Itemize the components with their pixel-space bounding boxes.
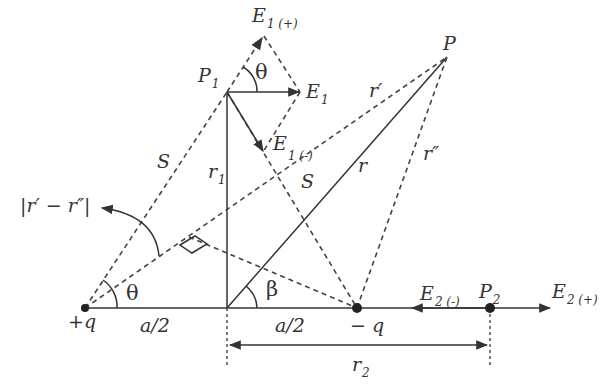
s-left-line [85,92,227,308]
r-diff-label: |r′ − r″| [20,194,90,217]
e1-minus-label: E1 (-) [272,132,313,163]
e1-plus-label: E1 (+) [251,4,298,31]
beta-arc [246,286,257,308]
e1-minus-arrow [227,92,263,151]
negative-charge-label: − q [350,314,384,336]
r-diff-arrow [102,208,159,256]
half-a-right-label: a/2 [275,314,305,336]
positive-charge-label: +q [68,310,96,332]
r-main-label: r [358,154,369,176]
half-a-left-label: a/2 [140,314,170,336]
p1-label: P1 [197,64,219,91]
r1-label: r1 [208,160,226,187]
r-prime-label: r′ [369,79,383,101]
s-right-label: S [301,170,314,192]
theta-bottom-arc [103,280,117,308]
r-double-prime-label: r″ [423,142,439,164]
s-left-label: S [157,150,170,172]
theta-bottom-label: θ [126,281,139,305]
e1-parallelogram-side [264,36,300,92]
p2-label: P2 [478,280,500,307]
dipole-diagram: E1 (+) θ P1 E1 E1 (-) P r′ r″ r S S r1 |… [0,0,615,388]
theta-top-label: θ [255,60,268,84]
p-label: P [442,32,457,54]
beta-label: β [266,277,278,301]
e2-minus-label: E2 (-) [419,282,460,309]
r2-label: r2 [352,353,370,380]
negative-charge [352,303,362,313]
e2-plus-label: E2 (+) [551,280,598,307]
r-line [227,57,447,308]
e1-label: E1 [305,80,329,107]
